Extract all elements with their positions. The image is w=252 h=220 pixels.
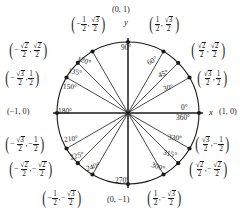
fraction-sqrt2-over-2: √22: [32, 42, 42, 58]
angle-label-30: 30°: [162, 83, 174, 92]
fraction-sqrt3-over-2: √32: [203, 70, 213, 86]
angle-label-90: 90°: [121, 44, 131, 51]
fraction-sqrt2-over-2: √22: [197, 42, 207, 58]
angle-label-270: 270°: [115, 177, 129, 184]
fraction-one-half: 12: [153, 190, 159, 206]
paren-close: ): [224, 161, 228, 177]
x-axis-label: x: [209, 108, 213, 117]
comma: ,: [207, 46, 209, 54]
minus-sign: −: [47, 194, 52, 202]
radius-225: [78, 113, 128, 163]
fraction-sqrt2-over-2: √22: [37, 161, 47, 177]
angle-label-330: 330°: [168, 133, 183, 142]
point-210: [64, 146, 68, 150]
paren-close: ): [178, 190, 182, 206]
paren-close: ): [36, 70, 40, 86]
point-300: [161, 172, 165, 176]
fraction-one-half: 12: [216, 70, 222, 86]
paren-close: ): [226, 136, 230, 152]
paren-open: (: [5, 136, 9, 152]
paren-open: (: [71, 16, 75, 32]
minus-sign: −: [207, 165, 212, 173]
comma: ,: [213, 74, 215, 82]
paren-open: (: [191, 42, 195, 58]
paren-close: ): [40, 136, 44, 152]
coord-label-135: ( − √22 , √22 ): [8, 42, 49, 58]
fraction-one-half: 12: [28, 70, 34, 86]
minus-sign: −: [28, 140, 33, 148]
paren-close: ): [221, 42, 225, 58]
fraction-sqrt2-over-2: √22: [19, 161, 29, 177]
coord-label-225: ( − √22 , − √22 ): [8, 161, 53, 177]
coord-label-60: ( 12 , √32 ): [148, 16, 180, 32]
coord-0-neg1: (0, −1): [107, 196, 129, 204]
paren-close: ): [77, 190, 81, 206]
paren-open: (: [147, 190, 151, 206]
paren-close: ): [48, 161, 52, 177]
fraction-sqrt3-over-2: √32: [164, 16, 174, 32]
angle-label-180: 180°: [58, 108, 72, 115]
comma: ,: [25, 74, 27, 82]
angle-label-360: 360°: [176, 114, 190, 121]
coord-label-240: ( − 12 , − √32 ): [41, 190, 82, 206]
fraction-sqrt3-over-2: √32: [90, 16, 100, 32]
unit-circle-canvas: [0, 0, 252, 220]
minus-sign: −: [10, 74, 15, 82]
paren-open: (: [9, 161, 13, 177]
point-240: [90, 172, 94, 176]
unit-circle-figure: y x (0, 1) (0, −1) (−1, 0) (1, 0) 90° 27…: [0, 0, 252, 220]
paren-open: (: [195, 136, 199, 152]
paren-close: ): [175, 16, 179, 32]
point-315: [176, 161, 180, 165]
minus-sign: −: [61, 194, 66, 202]
fraction-sqrt2-over-2: √22: [212, 161, 222, 177]
minus-sign: −: [76, 20, 81, 28]
paren-close: ): [44, 42, 48, 58]
minus-sign: −: [161, 194, 166, 202]
fraction-sqrt3-over-2: √32: [66, 190, 76, 206]
fraction-one-half: 12: [155, 16, 161, 32]
minus-sign: −: [213, 140, 218, 148]
coord-label-45: ( √22 , √22 ): [190, 42, 226, 58]
fraction-sqrt2-over-2: √22: [19, 42, 29, 58]
coord-label-210: ( − √32 , − 12 ): [4, 136, 45, 152]
fraction-sqrt2-over-2: √22: [195, 161, 205, 177]
point-60: [161, 49, 165, 53]
minus-sign: −: [10, 140, 15, 148]
radius-135: [78, 63, 128, 113]
point-120: [90, 49, 94, 53]
point-225: [76, 161, 80, 165]
angle-label-0: 0°: [181, 104, 188, 111]
comma: ,: [87, 20, 89, 28]
paren-open: (: [189, 161, 193, 177]
coord-label-315: ( √22 , − √22 ): [188, 161, 229, 177]
point-45: [176, 61, 180, 65]
radius-120: [93, 52, 129, 113]
point-0: [197, 111, 201, 115]
coord-1-0: (1, 0): [219, 108, 237, 116]
fraction-one-half: 12: [33, 136, 39, 152]
fraction-sqrt3-over-2: √32: [15, 70, 25, 86]
point-30: [187, 75, 191, 79]
coord-label-150: ( − √32 , 12 ): [4, 70, 41, 86]
paren-open: (: [197, 70, 201, 86]
point-150: [64, 75, 68, 79]
coord-neg1-0: (−1, 0): [7, 108, 29, 116]
paren-open: (: [149, 16, 153, 32]
comma: ,: [161, 20, 163, 28]
minus-sign: −: [32, 165, 37, 173]
fraction-one-half: 12: [218, 136, 224, 152]
fraction-sqrt3-over-2: √32: [166, 190, 176, 206]
fraction-sqrt3-over-2: √32: [15, 136, 25, 152]
fraction-sqrt2-over-2: √22: [210, 42, 220, 58]
coord-label-30: ( √32 , 12 ): [196, 70, 228, 86]
paren-open: (: [42, 190, 46, 206]
fraction-sqrt3-over-2: √32: [201, 136, 211, 152]
paren-open: (: [5, 70, 9, 86]
y-axis-label: y: [124, 18, 128, 27]
paren-close: ): [102, 16, 106, 32]
angle-label-150: 150°: [63, 82, 78, 91]
comma: ,: [29, 46, 31, 54]
coord-0-1: (0, 1): [112, 6, 130, 14]
coord-label-120: ( − 12 , √32 ): [70, 16, 107, 32]
